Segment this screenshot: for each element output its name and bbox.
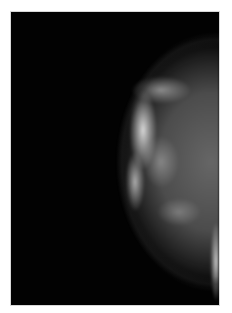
tissue-edge — [11, 12, 219, 305]
xray-image-frame — [11, 12, 219, 305]
